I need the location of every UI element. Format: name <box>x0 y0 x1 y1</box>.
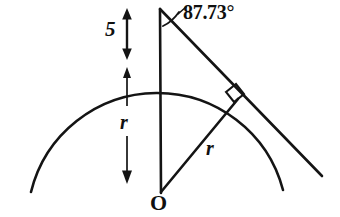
radius-line <box>161 99 238 192</box>
tangent-line <box>160 9 322 176</box>
circle-arc <box>31 93 283 192</box>
dimension-arrow-offset <box>122 8 132 60</box>
vertical-axis-line <box>160 9 161 193</box>
diagram-canvas <box>0 0 340 217</box>
offset-height-label: 5 <box>105 19 116 40</box>
radius-label-vertical: r <box>120 112 128 132</box>
center-point-label: O <box>150 192 167 214</box>
geometry-figure: 87.73° 5 r r O <box>0 0 340 217</box>
angle-label: 87.73° <box>183 2 234 22</box>
radius-label-slant: r <box>206 138 214 158</box>
